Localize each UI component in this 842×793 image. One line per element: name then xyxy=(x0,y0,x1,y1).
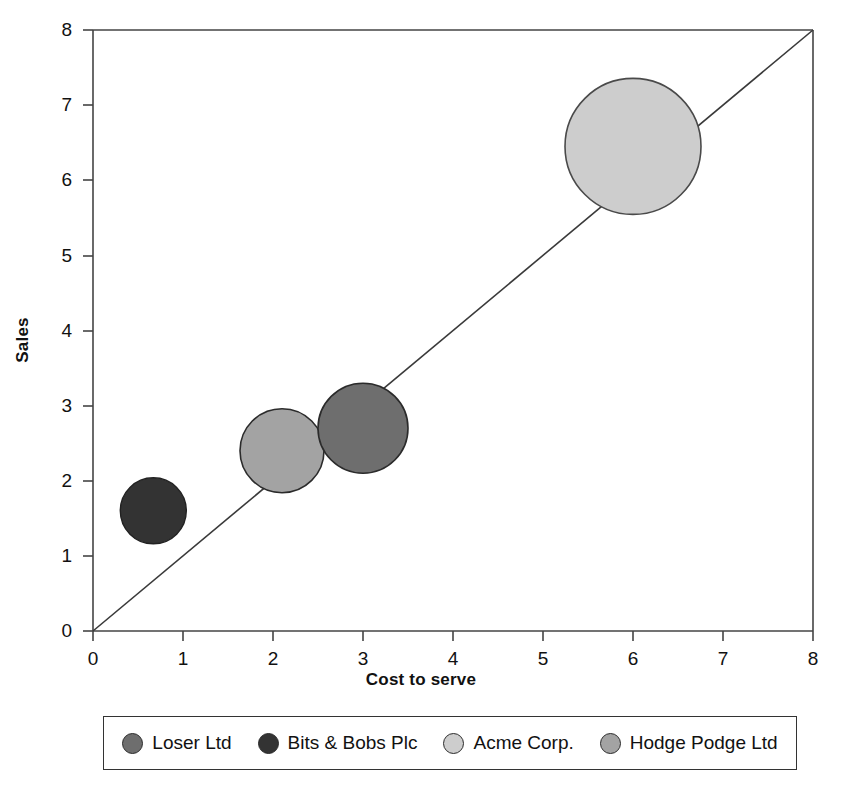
bubble-hodge-podge-ltd[interactable] xyxy=(240,409,324,493)
y-tick-label-5: 5 xyxy=(38,245,72,267)
x-tick-label-3: 3 xyxy=(346,648,380,670)
legend-item-label: Loser Ltd xyxy=(152,732,231,754)
bubble-markers xyxy=(120,78,701,543)
x-tick-label-7: 7 xyxy=(706,648,740,670)
x-tick-label-0: 0 xyxy=(76,648,110,670)
x-tick-label-5: 5 xyxy=(526,648,560,670)
y-axis-title: Sales xyxy=(13,295,33,385)
legend-item-loser-ltd[interactable]: Loser Ltd xyxy=(122,732,231,754)
legend-item-hodge-podge-ltd[interactable]: Hodge Podge Ltd xyxy=(600,732,778,754)
x-tick-label-6: 6 xyxy=(616,648,650,670)
bubble-chart: 0 1 2 3 4 5 6 7 8 0 1 2 3 4 5 6 7 8 Cost… xyxy=(0,0,842,793)
y-tick-label-6: 6 xyxy=(38,169,72,191)
x-tick-label-8: 8 xyxy=(796,648,830,670)
legend-item-label: Acme Corp. xyxy=(473,732,573,754)
legend-swatch-icon xyxy=(600,733,621,754)
y-axis-ticks xyxy=(83,30,93,631)
bubble-bits-and-bobs-plc[interactable] xyxy=(120,478,186,544)
x-tick-label-4: 4 xyxy=(436,648,470,670)
x-axis-ticks xyxy=(93,631,813,641)
legend-item-label: Hodge Podge Ltd xyxy=(630,732,778,754)
y-tick-label-3: 3 xyxy=(38,395,72,417)
legend-item-acme-corp[interactable]: Acme Corp. xyxy=(443,732,573,754)
bubble-acme-corp[interactable] xyxy=(565,78,701,214)
legend-item-label: Bits & Bobs Plc xyxy=(288,732,418,754)
diagonal-parity-line xyxy=(93,30,813,631)
legend-swatch-icon xyxy=(443,733,464,754)
x-axis-title: Cost to serve xyxy=(0,670,842,690)
y-tick-label-1: 1 xyxy=(38,545,72,567)
bubble-loser-ltd[interactable] xyxy=(318,383,408,473)
y-tick-label-8: 8 xyxy=(38,19,72,41)
legend-swatch-icon xyxy=(258,733,279,754)
x-tick-label-2: 2 xyxy=(256,648,290,670)
legend: Loser Ltd Bits & Bobs Plc Acme Corp. Hod… xyxy=(103,716,797,770)
y-tick-label-0: 0 xyxy=(38,620,72,642)
y-tick-label-4: 4 xyxy=(38,320,72,342)
y-tick-label-7: 7 xyxy=(38,94,72,116)
legend-swatch-icon xyxy=(122,733,143,754)
legend-item-bits-and-bobs-plc[interactable]: Bits & Bobs Plc xyxy=(258,732,418,754)
y-tick-label-2: 2 xyxy=(38,470,72,492)
x-tick-label-1: 1 xyxy=(166,648,200,670)
